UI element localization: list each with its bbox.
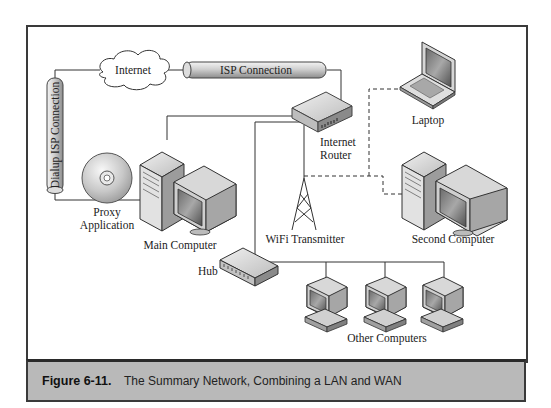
network-diagram: Internet ISP Connection Dialup ISP Conne… <box>0 0 551 408</box>
figure-caption: Figure 6-11. The Summary Network, Combin… <box>26 359 526 402</box>
figure-caption-text: The Summary Network, Combining a LAN and… <box>124 374 402 388</box>
figure-number: Figure 6-11. <box>42 374 120 388</box>
proxy-cd: Proxy Application <box>80 153 135 232</box>
other-computers-label: Other Computers <box>347 332 427 345</box>
other-computer-2 <box>364 277 406 332</box>
wifi-transmitter: WiFi Transmitter <box>265 178 344 245</box>
hub-label: Hub <box>198 265 218 277</box>
laptop: Laptop <box>400 42 455 127</box>
internet-cloud: Internet <box>100 50 170 89</box>
other-computer-1 <box>305 277 347 332</box>
router-label-line1: Internet <box>320 136 357 148</box>
router-label-line2: Router <box>320 149 351 161</box>
wifi-label: WiFi Transmitter <box>265 233 344 245</box>
hub: Hub <box>198 248 278 286</box>
proxy-label-line1: Proxy <box>93 206 121 219</box>
dialup-isp-label: Dialup ISP Connection <box>49 82 62 189</box>
internet-label: Internet <box>115 64 152 76</box>
other-computer-3 <box>421 277 463 332</box>
laptop-label: Laptop <box>412 114 445 127</box>
isp-connection-pipe: ISP Connection <box>183 62 326 78</box>
isp-connection-label: ISP Connection <box>220 64 292 76</box>
main-computer-label: Main Computer <box>143 239 216 252</box>
proxy-label-line2: Application <box>80 219 135 232</box>
dialup-isp-pipe: Dialup ISP Connection <box>47 78 63 194</box>
main-computer: Main Computer <box>140 152 236 252</box>
second-computer-label: Second Computer <box>412 233 495 246</box>
internet-router: Internet Router <box>292 92 357 161</box>
second-computer: Second Computer <box>402 152 507 246</box>
